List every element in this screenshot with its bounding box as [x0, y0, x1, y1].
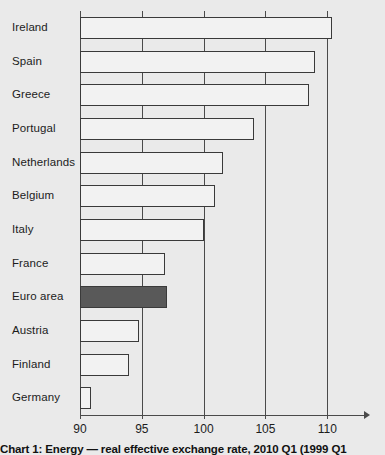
bar-austria [80, 320, 139, 342]
bar-spain [80, 51, 315, 73]
x-tick-mark-110 [327, 415, 328, 419]
bar-greece [80, 84, 309, 106]
x-tick-label-110: 110 [318, 422, 337, 436]
bar-ireland [80, 17, 332, 39]
category-label-germany: Germany [12, 392, 60, 404]
category-label-spain: Spain [12, 56, 42, 68]
x-tick-label-105: 105 [255, 422, 275, 436]
category-label-italy: Italy [12, 224, 34, 236]
bar-france [80, 253, 165, 275]
chart-caption: Chart 1: Energy — real effective exchang… [0, 443, 385, 455]
category-label-austria: Austria [12, 325, 49, 337]
x-tick-label-90: 90 [73, 422, 86, 436]
bar-italy [80, 219, 204, 241]
bar-germany [80, 387, 91, 409]
category-label-france: France [12, 258, 48, 270]
bar-finland [80, 354, 129, 376]
x-tick-mark-100 [204, 415, 205, 419]
x-tick-mark-95 [142, 415, 143, 419]
bar-euro-area [80, 286, 167, 308]
category-axis-labels: IrelandSpainGreecePortugalNetherlandsBel… [0, 11, 80, 415]
category-label-belgium: Belgium [12, 190, 54, 202]
category-label-netherlands: Netherlands [12, 157, 75, 169]
category-label-portugal: Portugal [12, 123, 56, 135]
bar-portugal [80, 118, 254, 140]
x-tick-label-100: 100 [194, 422, 214, 436]
plot-area [80, 11, 352, 415]
x-axis-arrow-icon [364, 411, 370, 419]
x-tick-mark-90 [80, 415, 81, 419]
x-tick-label-95: 95 [135, 422, 148, 436]
category-label-euro-area: Euro area [12, 291, 63, 303]
bar-belgium [80, 185, 215, 207]
category-label-greece: Greece [12, 89, 50, 101]
category-label-finland: Finland [12, 359, 50, 371]
category-label-ireland: Ireland [12, 22, 48, 34]
bar-netherlands [80, 152, 223, 174]
gridline-110 [327, 11, 328, 415]
x-tick-mark-105 [265, 415, 266, 419]
x-axis-line [80, 415, 368, 416]
